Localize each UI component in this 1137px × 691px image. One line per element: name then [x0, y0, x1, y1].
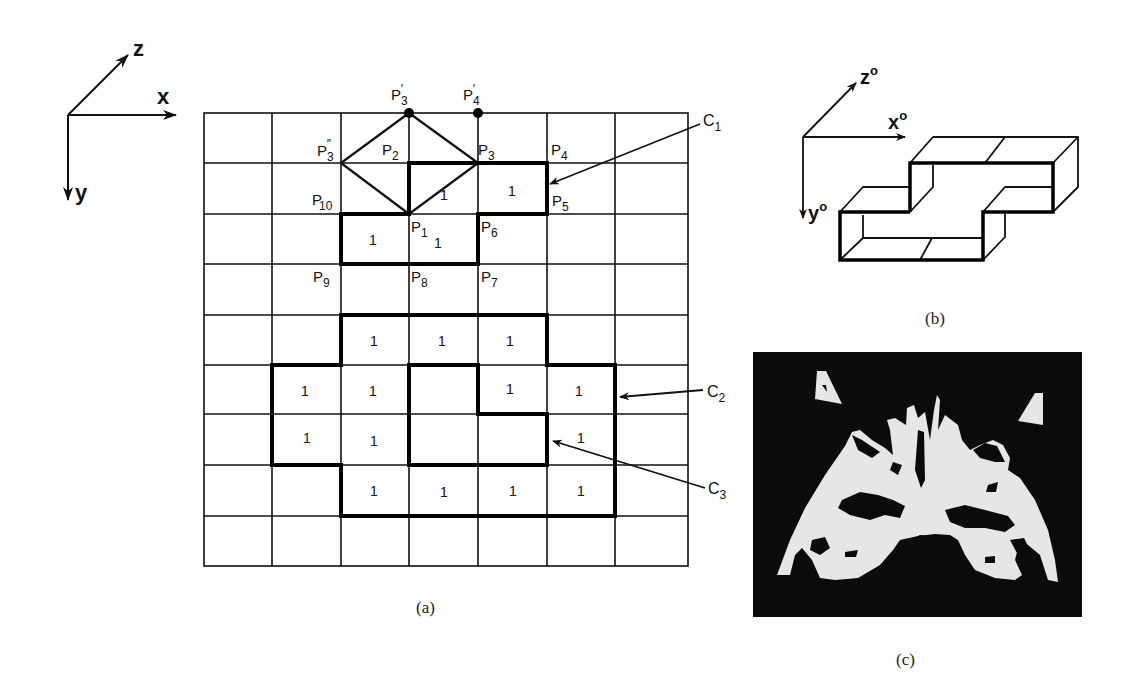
caption-b: (b) — [925, 309, 945, 328]
cell-value: 1 — [440, 187, 448, 203]
label-p1: P1 — [411, 218, 428, 240]
y-axis-label: y — [75, 180, 88, 205]
c1-pointer-arrow — [550, 124, 700, 184]
cell-value: 1 — [577, 483, 585, 499]
label-c3: C3 — [708, 480, 727, 502]
cell-value: 1 — [509, 483, 517, 499]
voxel-solid-3d — [840, 137, 1078, 260]
axes-xyz: z x y — [68, 36, 176, 205]
figure-canvas: z x y 1 1 1 1 1 1 — [0, 0, 1137, 691]
cell-value: 1 — [301, 383, 309, 399]
cell-value: 1 — [508, 183, 516, 199]
z-axis-label: z — [133, 36, 144, 61]
cell-value: 1 — [506, 381, 514, 397]
caption-a: (a) — [416, 598, 435, 617]
label-p2: P2 — [382, 141, 399, 163]
label-c1: C1 — [703, 112, 722, 134]
cell-value: 1 — [303, 430, 311, 446]
x-axis-label: x — [157, 84, 170, 109]
cell-value: 1 — [434, 235, 442, 251]
label-p3: P3 — [478, 141, 495, 163]
point-p3-prime-dot — [404, 108, 414, 118]
cell-value: 1 — [370, 483, 378, 499]
cell-value: 1 — [369, 383, 377, 399]
cell-value: 1 — [438, 333, 446, 349]
xo-axis-label: xo — [888, 108, 907, 133]
cell-value: 1 — [506, 333, 514, 349]
ct-slice-image — [753, 352, 1082, 617]
cell-value: 1 — [575, 383, 583, 399]
caption-c: (c) — [896, 650, 915, 669]
label-p9: P9 — [313, 268, 330, 290]
label-c2: C2 — [707, 383, 726, 405]
label-p10: P10 — [312, 191, 333, 213]
label-p3-prime: P3′ — [391, 82, 408, 108]
c2-pointer-arrow — [620, 390, 703, 397]
label-p3-double-prime: P3″ — [317, 137, 334, 164]
label-p4: P4 — [551, 141, 568, 163]
label-p5: P5 — [552, 192, 569, 214]
yo-axis-label: yo — [808, 199, 827, 224]
z-axis-arrow — [68, 55, 128, 115]
cell-value: 1 — [577, 430, 585, 446]
cell-value: 1 — [370, 333, 378, 349]
voxel-solid-3d-front — [840, 163, 1053, 260]
cell-value: 1 — [369, 232, 377, 248]
cell-value: 1 — [440, 484, 448, 500]
point-p4-prime-dot — [473, 108, 483, 118]
cell-values: 1 1 1 1 1 1 1 1 1 1 1 1 1 1 1 1 1 1 — [301, 183, 585, 500]
label-p4-prime: P4′ — [463, 82, 480, 108]
label-p8: P8 — [411, 268, 428, 290]
cell-value: 1 — [370, 433, 378, 449]
label-p6: P6 — [481, 218, 498, 240]
panel-b: zo xo yo — [803, 63, 1078, 260]
zo-axis-arrow — [803, 83, 856, 137]
zo-axis-label: zo — [860, 63, 878, 88]
label-p7: P7 — [481, 268, 498, 290]
